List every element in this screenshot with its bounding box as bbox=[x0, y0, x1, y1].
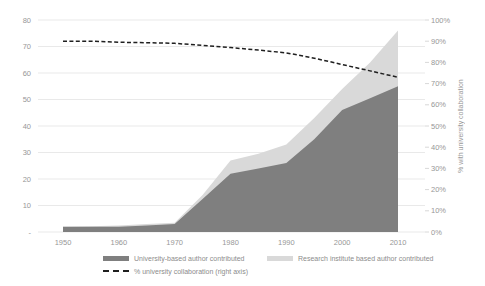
x-axis-tick-label: 2000 bbox=[334, 238, 351, 247]
x-axis-tick-label: 1980 bbox=[222, 238, 239, 247]
right-axis-tick-label: 20% bbox=[431, 185, 446, 194]
university-area-swatch bbox=[103, 256, 129, 261]
x-axis-tick-label: 1960 bbox=[110, 238, 127, 247]
left-axis-tick-label: 80 bbox=[23, 16, 31, 25]
right-axis-tick-label: 10% bbox=[431, 206, 446, 215]
left-axis-tick-label: 60 bbox=[23, 69, 31, 78]
right-axis-title: % with university collaboration bbox=[454, 0, 468, 252]
right-axis-tick-label: 0% bbox=[431, 228, 442, 237]
right-axis-tick-label: 30% bbox=[431, 164, 446, 173]
legend-label-institute: Research institute based author contribu… bbox=[298, 255, 433, 262]
legend-label-university: University-based author contributed bbox=[134, 255, 245, 262]
legend-label-collaboration: % university collaboration (right axis) bbox=[134, 268, 248, 275]
left-axis-tick-label: 50 bbox=[23, 95, 31, 104]
right-axis-tick-label: 70% bbox=[431, 79, 446, 88]
left-axis-tick-label: - bbox=[29, 228, 32, 237]
legend-item-institute: Research institute based author contribu… bbox=[267, 253, 433, 263]
left-axis-tick-label: 30 bbox=[23, 148, 31, 157]
university-area bbox=[63, 86, 398, 232]
legend-item-university: University-based author contributed bbox=[103, 253, 245, 263]
x-axis-tick-label: 1990 bbox=[278, 238, 295, 247]
legend-item-collaboration: % university collaboration (right axis) bbox=[103, 266, 248, 276]
institute-area-swatch bbox=[267, 256, 293, 261]
left-axis-tick-label: 20 bbox=[23, 175, 31, 184]
right-axis-tick-label: 90% bbox=[431, 37, 446, 46]
left-axis-tick-label: 70 bbox=[23, 42, 31, 51]
x-axis-tick-label: 1970 bbox=[166, 238, 183, 247]
right-axis-tick-label: 50% bbox=[431, 122, 446, 131]
right-axis-tick-label: 60% bbox=[431, 100, 446, 109]
right-axis-tick-label: 80% bbox=[431, 58, 446, 67]
x-axis-tick-label: 1950 bbox=[55, 238, 72, 247]
left-axis-tick-label: 40 bbox=[23, 122, 31, 131]
collaboration-chart: 8070605040302010-100%90%80%70%60%50%40%3… bbox=[0, 0, 485, 252]
left-axis-tick-label: 10 bbox=[23, 201, 31, 210]
chart-panel: 8070605040302010-100%90%80%70%60%50%40%3… bbox=[0, 0, 485, 286]
collaboration-line-swatch bbox=[103, 270, 129, 272]
right-axis-tick-label: 40% bbox=[431, 143, 446, 152]
right-axis-tick-label: 100% bbox=[431, 16, 451, 25]
x-axis-tick-label: 2010 bbox=[390, 238, 407, 247]
